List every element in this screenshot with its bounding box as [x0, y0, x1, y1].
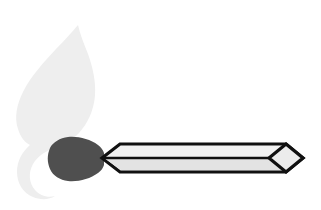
- match-head: [48, 137, 104, 181]
- matchstick-illustration: [0, 0, 321, 210]
- illustration-canvas: Lit matchstick illustration: [0, 0, 321, 210]
